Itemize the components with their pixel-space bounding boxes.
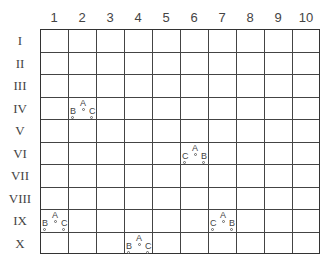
vertex-label: C [182, 152, 189, 161]
vertex-dot-icon [54, 220, 57, 223]
grid: ABCACBABCACBABC [40, 29, 320, 254]
column-header: 4 [124, 10, 152, 25]
column-header: 9 [264, 10, 292, 25]
grid-line [41, 164, 319, 165]
vertex-dot-icon [71, 116, 74, 119]
column-header: 2 [68, 10, 96, 25]
grid-line [41, 187, 319, 188]
column-header: 3 [96, 10, 124, 25]
vertex-label: A [192, 144, 198, 153]
vertex-dot-icon [90, 116, 93, 119]
vertex-label: B [42, 219, 48, 228]
column-header: 7 [208, 10, 236, 25]
vertex-dot-icon [183, 161, 186, 164]
grid-line [292, 30, 293, 253]
triangle-marker: ABC [41, 210, 69, 232]
vertex-dot-icon [62, 228, 65, 231]
row-header: VII [0, 168, 40, 184]
triangle-marker: ACB [209, 210, 237, 232]
vertex-dot-icon [43, 228, 46, 231]
vertex-dot-icon [138, 243, 141, 246]
row-header: IX [0, 213, 40, 229]
row-header: III [0, 78, 40, 94]
vertex-dot-icon [146, 251, 149, 254]
vertex-label: C [89, 107, 96, 116]
grid-line [41, 232, 319, 233]
vertex-dot-icon [230, 228, 233, 231]
vertex-label: C [61, 219, 68, 228]
vertex-label: B [70, 107, 76, 116]
row-header: II [0, 56, 40, 72]
vertex-dot-icon [222, 220, 225, 223]
vertex-label: C [145, 242, 152, 251]
column-header: 10 [292, 10, 320, 25]
row-header: IV [0, 101, 40, 117]
row-header: X [0, 236, 40, 252]
grid-line [41, 142, 319, 143]
vertex-dot-icon [202, 161, 205, 164]
triangle-marker: ACB [181, 143, 209, 165]
vertex-label: B [201, 152, 207, 161]
row-header: VIII [0, 191, 40, 207]
vertex-dot-icon [82, 108, 85, 111]
vertex-dot-icon [194, 153, 197, 156]
triangle-marker: ABC [69, 98, 97, 120]
vertex-label: A [220, 211, 226, 220]
vertex-label: B [126, 242, 132, 251]
column-header: 8 [236, 10, 264, 25]
column-header: 6 [180, 10, 208, 25]
vertex-label: A [80, 99, 86, 108]
vertex-dot-icon [211, 228, 214, 231]
row-header: V [0, 123, 40, 139]
vertex-dot-icon [127, 251, 130, 254]
row-header: VI [0, 146, 40, 162]
vertex-label: C [210, 219, 217, 228]
column-header: 1 [40, 10, 68, 25]
vertex-label: A [136, 234, 142, 243]
triangle-marker: ABC [125, 233, 153, 255]
vertex-label: B [229, 219, 235, 228]
vertex-label: A [52, 211, 58, 220]
column-header: 5 [152, 10, 180, 25]
grid-line [41, 209, 319, 210]
grid-line [264, 30, 265, 253]
row-header: I [0, 33, 40, 49]
